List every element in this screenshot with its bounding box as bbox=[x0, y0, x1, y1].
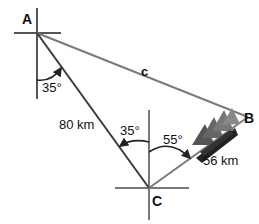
point-label-c: C bbox=[152, 194, 162, 208]
angle-label-c-35: 35° bbox=[120, 124, 140, 137]
side-label-cb: 56 km bbox=[203, 154, 238, 167]
point-label-b: B bbox=[244, 111, 254, 125]
triangle-diagram bbox=[0, 0, 259, 224]
point-label-a: A bbox=[22, 12, 32, 26]
angle-arc-a bbox=[37, 68, 61, 80]
side-label-c: c bbox=[141, 65, 148, 78]
side-label-ac: 80 km bbox=[59, 118, 94, 131]
angle-arc-c-35 bbox=[120, 141, 149, 146]
angle-label-c-55: 55° bbox=[163, 133, 183, 146]
angle-arc-c-55 bbox=[149, 146, 190, 158]
angle-label-a: 35° bbox=[42, 81, 62, 94]
